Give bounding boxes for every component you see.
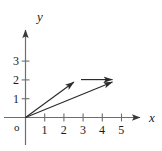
origin-label: o bbox=[14, 122, 20, 133]
y-tick-label-2: 2 bbox=[13, 74, 19, 86]
vector-diagram-figure: y x o 1 2 3 4 5 1 2 3 bbox=[0, 0, 162, 151]
x-tick-label-2: 2 bbox=[61, 124, 67, 136]
y-tick-label-3: 3 bbox=[13, 55, 19, 67]
x-axis-label: x bbox=[149, 111, 155, 124]
vector-a-arrow bbox=[26, 82, 75, 118]
vector-b-arrow bbox=[26, 82, 113, 118]
x-tick-label-5: 5 bbox=[118, 124, 124, 136]
y-tick-label-1: 1 bbox=[13, 93, 19, 105]
x-tick-label-4: 4 bbox=[99, 124, 105, 136]
x-tick-label-1: 1 bbox=[42, 124, 48, 136]
x-tick-label-3: 3 bbox=[80, 124, 86, 136]
y-axis-label: y bbox=[37, 10, 43, 23]
